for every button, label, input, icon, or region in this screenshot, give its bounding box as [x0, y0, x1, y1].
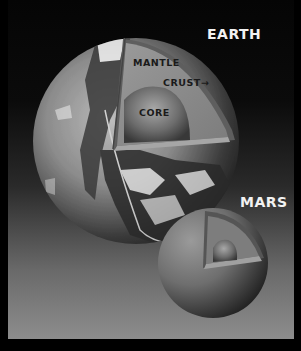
mars-label: MARS	[240, 194, 288, 210]
planets-illustration	[8, 0, 294, 339]
earth-label: EARTH	[207, 26, 261, 42]
core-label: CORE	[139, 107, 170, 118]
diagram-scene: EARTH MANTLE CRUST→ CORE MARS	[8, 0, 294, 339]
image-frame: EARTH MANTLE CRUST→ CORE MARS	[0, 0, 301, 351]
mantle-label: MANTLE	[133, 57, 180, 68]
mars-globe	[158, 208, 268, 318]
crust-label: CRUST→	[163, 77, 209, 88]
